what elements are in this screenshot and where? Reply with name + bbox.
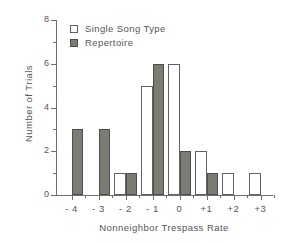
x-axis-title: Nonneighbor Trespass Rate — [56, 222, 272, 233]
legend-swatch-filled-square — [70, 39, 78, 47]
x-tick-major — [261, 195, 262, 200]
x-tick-label: - 4 — [57, 203, 87, 214]
y-tick-label: 0 — [36, 189, 49, 199]
y-tick-minor — [53, 129, 56, 130]
x-tick-minor — [166, 195, 167, 198]
y-tick-major — [51, 108, 56, 109]
bar-filled-3 — [153, 64, 165, 195]
x-tick-label: - 1 — [138, 203, 168, 214]
x-tick-label: +1 — [192, 203, 222, 214]
x-tick-major — [99, 195, 100, 200]
legend-label: Single Song Type — [85, 23, 166, 34]
x-tick-major — [72, 195, 73, 200]
y-axis-line — [56, 20, 57, 195]
y-tick-major — [51, 151, 56, 152]
bar-open-5 — [195, 151, 207, 195]
y-tick-label: 6 — [36, 58, 49, 68]
x-axis-line — [56, 195, 273, 196]
x-tick-label: - 2 — [111, 203, 141, 214]
x-tick-label: +3 — [246, 203, 276, 214]
y-tick-major — [51, 64, 56, 65]
plot-area: 02468 - 4- 3- 2- 10+1+2+3 Single Song Ty… — [56, 20, 272, 195]
legend-swatch-open-square — [70, 25, 78, 33]
x-tick-major — [153, 195, 154, 200]
bar-filled-0 — [72, 129, 84, 195]
bar-filled-5 — [207, 173, 219, 195]
y-axis-title: Number of Trials — [23, 29, 34, 179]
x-tick-minor — [274, 195, 275, 198]
x-tick-minor — [85, 195, 86, 198]
legend-item-single-song-type: Single Song Type — [70, 22, 166, 35]
y-tick-minor — [53, 86, 56, 87]
bar-open-4 — [168, 64, 180, 195]
bar-filled-2 — [126, 173, 138, 195]
x-tick-major — [234, 195, 235, 200]
bar-filled-4 — [180, 151, 192, 195]
y-tick-minor — [53, 42, 56, 43]
bar-open-3 — [141, 86, 153, 195]
x-tick-label: - 3 — [84, 203, 114, 214]
y-tick-label: 8 — [36, 14, 49, 24]
y-tick-label: 4 — [36, 102, 49, 112]
bar-open-7 — [249, 173, 261, 195]
x-tick-major — [126, 195, 127, 200]
bar-open-6 — [222, 173, 234, 195]
bar-filled-1 — [99, 129, 111, 195]
y-tick-label: 2 — [36, 145, 49, 155]
x-tick-minor — [220, 195, 221, 198]
y-tick-major — [51, 195, 56, 196]
legend-item-repertoire: Repertoire — [70, 36, 166, 49]
x-tick-major — [207, 195, 208, 200]
x-tick-minor — [112, 195, 113, 198]
bar-chart-figure: Number of Trials Nonneighbor Trespass Ra… — [0, 0, 284, 243]
y-tick-minor — [53, 173, 56, 174]
chart-legend: Single Song Type Repertoire — [70, 22, 166, 50]
x-tick-label: +2 — [219, 203, 249, 214]
x-tick-minor — [247, 195, 248, 198]
x-tick-minor — [139, 195, 140, 198]
y-tick-major — [51, 20, 56, 21]
bar-open-2 — [114, 173, 126, 195]
x-tick-label: 0 — [165, 203, 195, 214]
legend-label: Repertoire — [85, 37, 133, 48]
x-tick-minor — [193, 195, 194, 198]
x-tick-major — [180, 195, 181, 200]
